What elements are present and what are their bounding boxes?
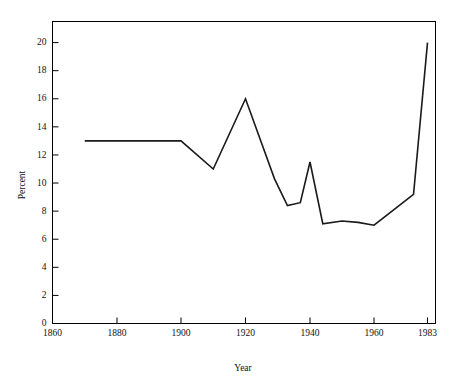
x-tick-label: 1940 [301,328,320,338]
y-tick-label: 6 [42,234,47,244]
y-tick-label: 12 [37,150,47,160]
x-tick-label: 1880 [108,328,127,338]
y-tick-label: 10 [37,178,47,188]
x-tick-label: 1983 [418,328,437,338]
y-tick-label: 4 [42,262,47,272]
y-tick-label: 16 [37,93,47,103]
x-tick-label: 1960 [365,328,384,338]
data-series-percent [85,43,428,226]
x-tick-label: 1920 [236,328,255,338]
y-tick-label: 18 [37,65,47,75]
y-tick-label: 14 [37,122,47,132]
x-axis-ticks: 1860188019001920194019601983 [43,318,437,338]
y-tick-label: 20 [37,37,47,47]
x-tick-label: 1900 [172,328,191,338]
y-tick-label: 2 [42,290,47,300]
y-axis-title: Percent [17,170,27,199]
x-axis-title: Year [234,363,252,373]
plot-frame [53,22,436,324]
y-tick-label: 8 [42,206,47,216]
chart-container: 02468101214161820 1860188019001920194019… [0,0,454,383]
line-chart: 02468101214161820 1860188019001920194019… [0,0,454,383]
x-tick-label: 1860 [43,328,62,338]
y-axis-ticks: 02468101214161820 [37,37,59,328]
y-tick-label: 0 [42,318,47,328]
